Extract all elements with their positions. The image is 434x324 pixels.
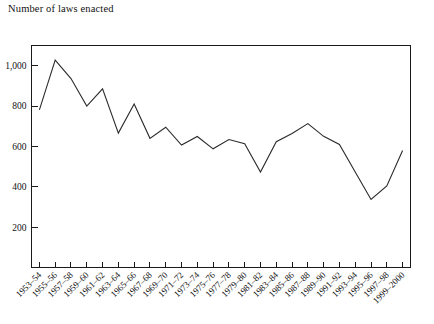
series-line bbox=[39, 60, 402, 199]
x-axis-labels: 1953–541955–561957–581959–601961–621963–… bbox=[14, 269, 407, 305]
y-axis-ticks bbox=[32, 66, 38, 227]
line-chart-plot: 2004006008001,000 1953–541955–561957–581… bbox=[0, 0, 434, 324]
x-axis-ticks bbox=[39, 262, 402, 268]
plot-frame bbox=[32, 46, 411, 268]
y-axis-labels: 2004006008001,000 bbox=[5, 61, 27, 232]
y-tick-label: 400 bbox=[12, 182, 27, 192]
y-tick-label: 1,000 bbox=[5, 61, 27, 71]
chart-figure: Number of laws enacted 2004006008001,000… bbox=[0, 0, 434, 324]
y-tick-label: 200 bbox=[12, 223, 27, 233]
y-tick-label: 600 bbox=[12, 142, 27, 152]
y-tick-label: 800 bbox=[12, 101, 27, 111]
data-series-laws-enacted bbox=[39, 60, 402, 199]
